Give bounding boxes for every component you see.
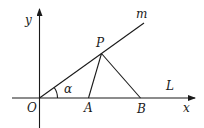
label-y: y (24, 13, 32, 27)
label-O: O (27, 101, 37, 115)
label-m: m (136, 7, 147, 21)
segment-PB (102, 54, 141, 99)
angle-arc (54, 88, 57, 99)
label-alpha: α (64, 82, 72, 96)
label-P: P (95, 36, 105, 50)
segment-PA (89, 54, 102, 99)
label-B: B (136, 102, 146, 116)
label-x: x (183, 101, 190, 115)
label-L: L (165, 79, 174, 93)
geometry-diagram: y m P α L O A B x (0, 0, 204, 128)
label-A: A (83, 101, 93, 115)
